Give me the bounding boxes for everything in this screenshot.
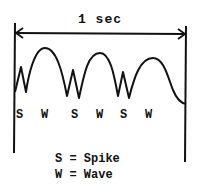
duration-label: 1 sec — [78, 12, 122, 27]
sequence-label-spike: S — [16, 108, 23, 122]
sequence-label-spike: S — [71, 108, 78, 122]
left-boundary-line — [14, 23, 15, 153]
legend-wave: W = Wave — [55, 168, 113, 182]
spike-wave-diagram: 1 sec S W S W S W S = Spike W = Wave — [0, 0, 200, 188]
sequence-label-wave: W — [145, 108, 152, 122]
sequence-label-spike: S — [120, 108, 127, 122]
sequence-label-wave: W — [41, 108, 48, 122]
sequence-label-wave: W — [96, 108, 103, 122]
spike-wave-trace — [15, 48, 186, 104]
right-boundary-line — [185, 26, 186, 162]
legend-spike: S = Spike — [55, 152, 120, 166]
duration-arrow — [16, 28, 185, 39]
